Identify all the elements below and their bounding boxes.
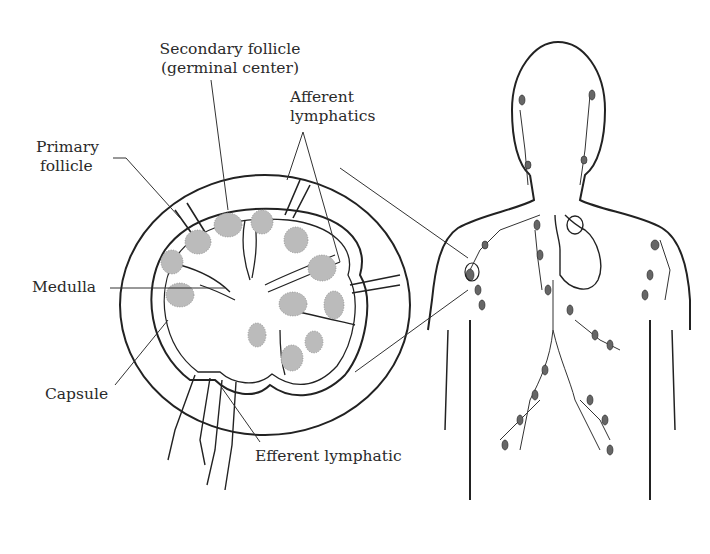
label-secondary-follicle: Secondary follicle (germinal center) bbox=[130, 40, 330, 78]
label-line: Secondary follicle bbox=[130, 40, 330, 59]
lymph-vessels bbox=[470, 95, 670, 450]
heart bbox=[555, 215, 601, 289]
follicles bbox=[161, 210, 344, 371]
label-medulla: Medulla bbox=[32, 278, 96, 297]
label-capsule: Capsule bbox=[45, 385, 108, 404]
label-line: Primary bbox=[36, 138, 99, 157]
label-afferent-lymphatics: Afferent lymphatics bbox=[290, 88, 375, 126]
label-primary-follicle: Primary follicle bbox=[36, 138, 99, 176]
lymph-nodes bbox=[466, 90, 659, 455]
diagram-drawing bbox=[0, 0, 710, 554]
label-efferent-lymphatic: Efferent lymphatic bbox=[255, 447, 402, 466]
label-line: Afferent bbox=[290, 88, 375, 107]
label-line: lymphatics bbox=[290, 107, 375, 126]
label-line: follicle bbox=[36, 157, 99, 176]
lymph-node-diagram: Secondary follicle (germinal center) Aff… bbox=[0, 0, 710, 554]
label-line: (germinal center) bbox=[130, 59, 330, 78]
